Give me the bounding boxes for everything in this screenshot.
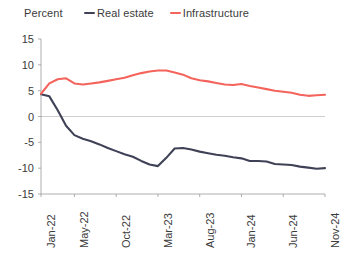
series-line-real-estate: [41, 94, 325, 168]
series-line-infrastructure: [41, 71, 325, 96]
